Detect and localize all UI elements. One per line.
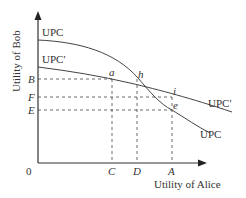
y-tick-f: F	[27, 91, 35, 103]
upc-prime-label-top: UPC'	[42, 53, 65, 65]
x-tick-a: A	[167, 165, 175, 177]
y-tick-b: B	[28, 73, 35, 85]
y-axis-label: Utility of Bob	[10, 30, 22, 92]
upc-label-bottom: UPC	[200, 128, 221, 140]
utility-possibility-diagram: UPC UPC' UPC' UPC B F E 0 C D A a h i e …	[0, 0, 246, 198]
upc-prime-label-bottom: UPC'	[208, 97, 231, 109]
upc-prime-curve	[38, 67, 232, 112]
point-h: h	[138, 68, 144, 80]
point-e: e	[173, 99, 178, 111]
x-tick-c: C	[108, 165, 116, 177]
y-axis-arrow-icon	[35, 11, 42, 20]
y-tick-e: E	[27, 104, 35, 116]
x-axis-arrow-icon	[198, 160, 207, 167]
x-axis-label: Utility of Alice	[154, 178, 221, 190]
upc-label-top: UPC	[42, 26, 63, 38]
x-tick-d: D	[132, 165, 141, 177]
point-a: a	[109, 66, 115, 78]
origin-label: 0	[26, 165, 32, 177]
point-i: i	[173, 85, 176, 97]
